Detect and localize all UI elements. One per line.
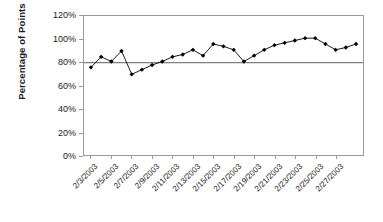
data-point-marker <box>191 48 195 52</box>
y-axis-tick-label: 60% <box>58 81 76 91</box>
data-point-marker <box>313 36 317 40</box>
x-axis-tick-mark <box>172 156 173 159</box>
data-point-marker <box>170 55 174 59</box>
data-point-marker <box>333 48 337 52</box>
x-axis-tick-labels: 2/3/20032/5/20032/7/20032/9/20032/11/200… <box>0 156 383 222</box>
data-point-marker <box>293 38 297 42</box>
chart-container: Percentage of Points 0%20%40%60%80%100%1… <box>0 0 383 222</box>
data-point-marker <box>344 45 348 49</box>
x-axis-tick-mark <box>131 156 132 159</box>
x-axis-tick-mark <box>234 156 235 159</box>
x-axis-tick-mark <box>275 156 276 159</box>
x-axis-tick-mark <box>336 156 337 159</box>
y-axis-tick-label: 20% <box>58 128 76 138</box>
y-axis-tick-label: 120% <box>53 10 76 20</box>
y-axis-tick-label: 80% <box>58 57 76 67</box>
series-line <box>91 38 356 74</box>
data-point-marker <box>282 41 286 45</box>
data-point-marker <box>262 48 266 52</box>
line-series-svg <box>84 16 363 156</box>
data-point-marker <box>130 72 134 76</box>
x-axis-tick-mark <box>90 156 91 159</box>
x-axis-tick-mark <box>152 156 153 159</box>
data-point-marker <box>181 52 185 56</box>
data-point-marker <box>323 42 327 46</box>
data-point-marker <box>354 42 358 46</box>
data-point-marker <box>221 44 225 48</box>
data-point-marker <box>150 63 154 67</box>
x-axis-tick-mark <box>193 156 194 159</box>
data-point-marker <box>272 43 276 47</box>
data-point-marker <box>252 53 256 57</box>
x-axis-tick-mark <box>316 156 317 159</box>
x-axis-tick-mark <box>295 156 296 159</box>
x-axis-tick-mark <box>254 156 255 159</box>
data-point-marker <box>140 67 144 71</box>
y-axis-tick-label: 100% <box>53 34 76 44</box>
y-axis-tick-label: 40% <box>58 104 76 114</box>
x-axis-tick-mark <box>213 156 214 159</box>
plot-area <box>83 15 364 156</box>
x-axis-tick-mark <box>111 156 112 159</box>
data-point-marker <box>303 36 307 40</box>
